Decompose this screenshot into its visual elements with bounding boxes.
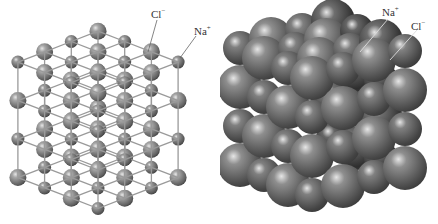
- right-na-label: Na+: [382, 7, 399, 18]
- right-cl-label: Cl−: [411, 21, 425, 32]
- na-leader-line: [180, 36, 196, 58]
- na-sphere: [388, 34, 422, 68]
- spheres: [220, 0, 427, 212]
- left-na-label: Na+: [194, 26, 211, 37]
- ball-and-stick-lattice: [0, 0, 220, 224]
- cl-sphere: [383, 68, 427, 112]
- atoms: [9, 23, 186, 215]
- cl-sphere: [383, 146, 427, 190]
- na-sphere: [388, 112, 422, 146]
- ball-and-stick-model: Cl− Na+: [0, 0, 220, 224]
- left-cl-label: Cl−: [151, 9, 165, 20]
- space-filling-model: Na+ Cl−: [220, 0, 438, 224]
- space-filling-lattice: [220, 0, 438, 224]
